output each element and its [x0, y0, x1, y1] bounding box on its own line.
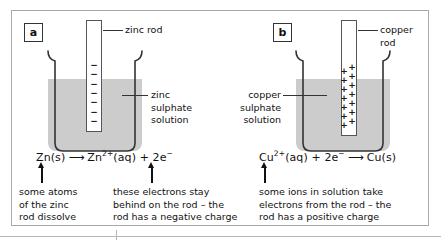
equation-a-product-ion: Zn — [87, 151, 102, 164]
equation-b-electrons: 2e — [324, 151, 338, 164]
copper-rod-leader — [358, 30, 378, 31]
equation-b: Cu2+(aq) + 2e− ⟶ Cu(s) — [259, 149, 396, 164]
equation-a-product-charge: 2+ — [102, 149, 113, 158]
annotation-a-right: these electrons stay behind on the rod –… — [113, 186, 243, 224]
equation-a-arrow: ⟶ — [69, 151, 84, 164]
annotation-arrow-a2 — [151, 167, 153, 183]
equation-a-electron-charge: − — [167, 149, 173, 158]
copper-rod — [341, 20, 357, 136]
equation-a-product-state: (aq) — [113, 151, 136, 164]
electrochemistry-figure: a − − − − − − − zinc rod zinc sulphate s… — [0, 0, 441, 240]
copper-solution-label: copper sulphate solution — [225, 89, 281, 127]
panel-label-b: b — [273, 23, 292, 42]
zinc-rod-label: zinc rod — [125, 24, 195, 37]
equation-a-electrons: 2e — [153, 151, 167, 164]
equation-b-reactant-state: (aq) — [285, 151, 308, 164]
equation-b-arrow: ⟶ — [348, 151, 363, 164]
zinc-rod-leader — [103, 30, 123, 31]
panel-label-a: a — [24, 23, 43, 42]
annotation-arrow-a1 — [41, 167, 43, 183]
page-rule-left — [0, 236, 116, 237]
page-rule-tick — [116, 230, 117, 240]
page-rule-right — [117, 236, 441, 237]
copper-rod-label: copper rod — [380, 24, 436, 49]
equation-b-plus: + — [311, 151, 320, 164]
equation-b-reactant-charge: 2+ — [274, 149, 285, 158]
zinc-solution-leader — [122, 95, 148, 96]
zinc-solution-label: zinc sulphate solution — [151, 89, 213, 127]
equation-b-electron-charge: − — [338, 149, 344, 158]
annotation-arrow-b1 — [264, 167, 266, 183]
equation-b-product: Cu(s) — [367, 151, 396, 164]
copper-solution-leader — [283, 95, 327, 96]
annotation-b: some ions in solution take electrons fro… — [259, 186, 411, 224]
annotation-a-left: some atoms of the zinc rod dissolve — [19, 186, 109, 224]
zinc-rod — [86, 20, 102, 132]
